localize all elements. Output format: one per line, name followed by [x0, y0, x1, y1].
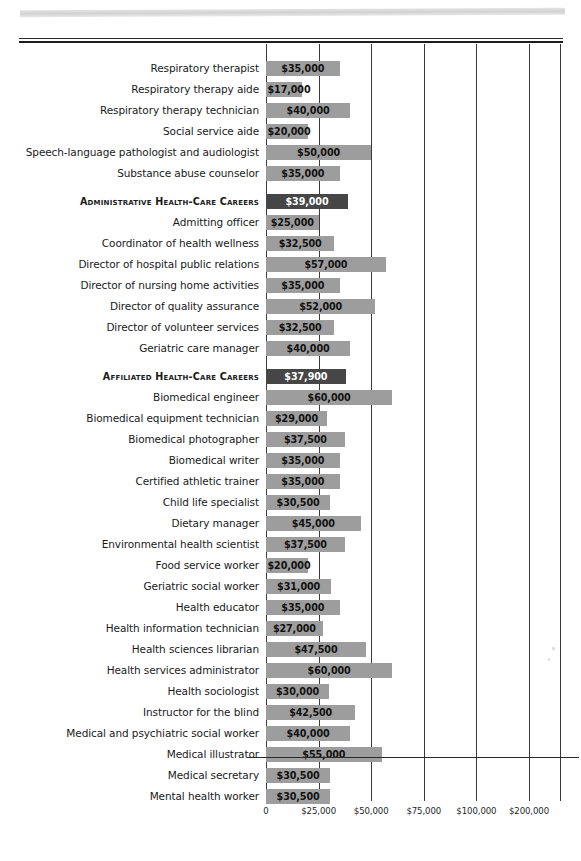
chart-section-row: Affiliated Health-Care Careers$37,900: [19, 369, 563, 384]
chart-row: Geriatric social worker$31,000: [19, 579, 563, 594]
bar-value-label: $35,000: [266, 600, 340, 615]
bar-value-label: $57,000: [266, 257, 386, 272]
row-label: Substance abuse counselor: [19, 166, 259, 181]
chart-row: Biomedical engineer$60,000: [19, 390, 563, 405]
axis-line-bottom: [247, 757, 579, 758]
chart-row: Biomedical writer$35,000: [19, 453, 563, 468]
chart-row: Medical and psychiatric social worker$40…: [19, 726, 563, 741]
x-tick-label: $25,000: [301, 806, 336, 816]
row-label: Medical illustrator: [19, 747, 259, 762]
bar-value-label: $55,000: [266, 747, 382, 762]
row-label: Geriatric care manager: [19, 341, 259, 356]
chart-row: Medical illustrator$55,000: [19, 747, 563, 762]
bar-value-label: $30,500: [266, 495, 330, 510]
row-label: Dietary manager: [19, 516, 259, 531]
rule-line-lower: [19, 41, 563, 43]
chart-row: Certified athletic trainer$35,000: [19, 474, 563, 489]
row-label: Respiratory therapy aide: [19, 82, 259, 97]
salary-bar-chart: Respiratory therapist$35,000Respiratory …: [19, 44, 563, 801]
row-label: Director of nursing home activities: [19, 278, 259, 293]
bar-value-label: $32,500: [266, 320, 334, 335]
bar-value-label: $20,000: [266, 124, 312, 139]
chart-row: Director of quality assurance$52,000: [19, 299, 563, 314]
chart-row: Coordinator of health wellness$32,500: [19, 236, 563, 251]
bar-value-label: $35,000: [266, 61, 340, 76]
bar-value-label: $50,000: [266, 145, 371, 160]
bar-value-label: $30,500: [266, 789, 330, 804]
bar-value-label: $30,000: [266, 684, 329, 699]
row-label: Health sociologist: [19, 684, 259, 699]
bar-value-label: $35,000: [266, 278, 340, 293]
x-axis-tick-labels: 0$25,000$50,000$75,000$100,000$200,000: [19, 806, 563, 820]
scan-speckle: [548, 658, 550, 661]
x-tick-label: $50,000: [354, 806, 389, 816]
bar-value-label: $35,000: [266, 474, 340, 489]
bar-value-label: $60,000: [266, 390, 392, 405]
bar-value-label: $31,000: [266, 579, 331, 594]
top-double-rule: [19, 38, 563, 43]
row-label: Admitting officer: [19, 215, 259, 230]
chart-row: Social service aide$20,000: [19, 124, 563, 139]
bar-value-label: $29,000: [266, 411, 327, 426]
chart-row: Health services administrator$60,000: [19, 663, 563, 678]
row-label: Health sciences librarian: [19, 642, 259, 657]
row-label: Director of hospital public relations: [19, 257, 259, 272]
chart-row: Health educator$35,000: [19, 600, 563, 615]
row-label: Biomedical equipment technician: [19, 411, 259, 426]
chart-row: Respiratory therapy technician$40,000: [19, 103, 563, 118]
bar-value-label: $39,000: [266, 194, 348, 209]
scan-speckle: [552, 647, 555, 650]
chart-rows: Respiratory therapist$35,000Respiratory …: [19, 44, 563, 801]
chart-row: Instructor for the blind$42,500: [19, 705, 563, 720]
row-label: Affiliated Health-Care Careers: [19, 369, 259, 384]
chart-row: Child life specialist$30,500: [19, 495, 563, 510]
x-tick-label: $75,000: [406, 806, 441, 816]
bar-value-label: $25,000: [266, 215, 319, 230]
row-label: Environmental health scientist: [19, 537, 259, 552]
row-label: Biomedical writer: [19, 453, 259, 468]
row-label: Director of volunteer services: [19, 320, 259, 335]
row-label: Mental health worker: [19, 789, 259, 804]
chart-row: Director of nursing home activities$35,0…: [19, 278, 563, 293]
x-tick-label: 0: [263, 806, 268, 816]
row-label: Certified athletic trainer: [19, 474, 259, 489]
bar-value-label: $40,000: [266, 341, 350, 356]
row-label: Biomedical engineer: [19, 390, 259, 405]
bar-value-label: $35,000: [266, 453, 340, 468]
bar-value-label: $37,500: [266, 432, 345, 447]
bar-value-label: $20,000: [266, 558, 312, 573]
row-label: Health services administrator: [19, 663, 259, 678]
row-label: Speech-language pathologist and audiolog…: [19, 145, 259, 160]
row-label: Instructor for the blind: [19, 705, 259, 720]
chart-row: Director of hospital public relations$57…: [19, 257, 563, 272]
row-label: Food service worker: [19, 558, 259, 573]
rule-line-upper: [19, 38, 563, 39]
x-tick-label: $200,000: [509, 806, 549, 816]
row-label: Coordinator of health wellness: [19, 236, 259, 251]
row-label: Respiratory therapist: [19, 61, 259, 76]
chart-row: Respiratory therapist$35,000: [19, 61, 563, 76]
chart-row: Mental health worker$30,500: [19, 789, 563, 804]
row-label: Medical secretary: [19, 768, 259, 783]
bar-value-label: $27,000: [266, 621, 323, 636]
row-label: Social service aide: [19, 124, 259, 139]
row-label: Biomedical photographer: [19, 432, 259, 447]
row-label: Health information technician: [19, 621, 259, 636]
bar-value-label: $45,000: [266, 516, 361, 531]
bar-value-label: $40,000: [266, 726, 350, 741]
chart-row: Medical secretary$30,500: [19, 768, 563, 783]
chart-row: Biomedical equipment technician$29,000: [19, 411, 563, 426]
row-label: Child life specialist: [19, 495, 259, 510]
row-label: Medical and psychiatric social worker: [19, 726, 259, 741]
bar-value-label: $17,000: [266, 82, 312, 97]
row-label: Administrative Health-Care Careers: [19, 194, 259, 209]
chart-section-row: Administrative Health-Care Careers$39,00…: [19, 194, 563, 209]
row-label: Health educator: [19, 600, 259, 615]
scan-artifact-band: [20, 8, 565, 17]
chart-row: Respiratory therapy aide$17,000: [19, 82, 563, 97]
row-label: Respiratory therapy technician: [19, 103, 259, 118]
bar-value-label: $47,500: [266, 642, 366, 657]
x-tick-label: $100,000: [456, 806, 496, 816]
bar-value-label: $40,000: [266, 103, 350, 118]
bar-value-label: $60,000: [266, 663, 392, 678]
